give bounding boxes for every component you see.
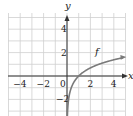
x-tick-label: −2: [37, 79, 50, 89]
x-tick-label: −4: [13, 79, 27, 89]
curve-label-f: f: [94, 46, 101, 57]
x-axis-label: x: [128, 70, 133, 81]
function-graph: −4−2024−224 f x y: [0, 0, 133, 116]
x-tick-label: 2: [87, 79, 93, 89]
y-tick-label: 4: [61, 24, 67, 34]
y-axis-label: y: [64, 0, 71, 11]
x-tick-label: 4: [111, 79, 117, 89]
y-tick-label: 2: [61, 48, 67, 58]
x-tick-label: 0: [60, 79, 66, 89]
y-axis-arrow-icon: [65, 15, 70, 21]
y-tick-label: −2: [56, 94, 69, 104]
